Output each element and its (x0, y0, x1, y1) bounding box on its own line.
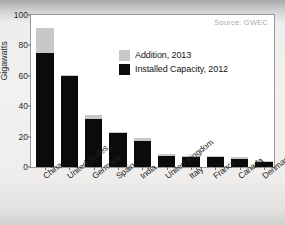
y-tick-label: 20 (19, 132, 28, 142)
bar-segment-addition (36, 28, 53, 52)
chart-page: Source: GWEC Addition, 2013 Installed Ca… (0, 0, 285, 225)
bar-united-states (61, 75, 78, 167)
bars-container: 020406080100 (31, 15, 274, 167)
y-tick-mark (28, 45, 31, 46)
y-tick-mark (28, 136, 31, 137)
bar-segment-installed (61, 76, 78, 167)
y-tick-mark (28, 106, 31, 107)
bar-segment-addition (61, 75, 78, 76)
y-tick-mark (28, 15, 31, 16)
bar-segment-installed (36, 53, 53, 167)
y-tick-mark (28, 75, 31, 76)
y-tick-label: 80 (19, 40, 28, 50)
cropped-title-strip (0, 0, 285, 9)
y-tick-label: 100 (14, 10, 28, 20)
bar-india (134, 138, 151, 167)
y-axis-title: Gigawatts (0, 19, 9, 103)
bar-china (36, 28, 53, 167)
y-tick-mark (28, 167, 31, 168)
bar-segment-addition (134, 138, 151, 141)
bar-segment-installed (134, 141, 151, 167)
bar-segment-addition (85, 115, 102, 120)
bar-segment-addition (158, 154, 175, 156)
plot-area: Source: GWEC Addition, 2013 Installed Ca… (30, 14, 275, 168)
y-tick-label: 60 (19, 71, 28, 81)
y-tick-label: 40 (19, 101, 28, 111)
